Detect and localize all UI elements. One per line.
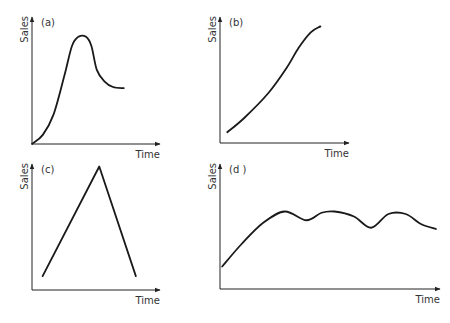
x-axis-label: Time: [415, 294, 440, 305]
x-axis-label: Time: [135, 295, 160, 306]
y-axis-label: Sales: [19, 16, 30, 43]
x-axis-label: Time: [135, 149, 160, 160]
y-axis-label: Sales: [207, 163, 218, 190]
y-axis-label: Sales: [207, 16, 218, 43]
chart-panel-d: SalesTime(d ): [207, 163, 440, 305]
panel-label: (c): [41, 164, 54, 175]
sales-curve: [227, 26, 320, 132]
sales-curve: [43, 167, 136, 277]
x-axis-label: Time: [324, 148, 349, 159]
chart-panel-a: SalesTime(a): [19, 16, 160, 160]
panel-label: (b): [229, 17, 243, 28]
panel-label: (d ): [229, 164, 246, 175]
chart-figure: SalesTime(a)SalesTime(b)SalesTime(c)Sale…: [0, 0, 450, 323]
chart-panel-b: SalesTime(b): [207, 16, 349, 159]
chart-panel-c: SalesTime(c): [19, 163, 160, 306]
sales-curve: [222, 211, 436, 266]
sales-curve: [32, 36, 124, 144]
y-axis-label: Sales: [19, 163, 30, 190]
panel-label: (a): [41, 17, 55, 28]
